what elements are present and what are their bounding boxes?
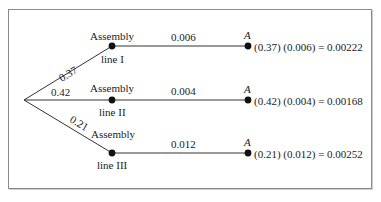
branch-line-3: 0.21 Assembly line III 0.012 A (0.21) (0… xyxy=(24,100,363,171)
line3-top-label: Assembly xyxy=(91,128,136,140)
line3-node xyxy=(109,150,116,157)
line2-defect-prob-label: 0.004 xyxy=(171,85,196,97)
probability-tree-diagram: 0.37 Assembly line I 0.006 A (0.37) (0.0… xyxy=(0,0,381,202)
line3-defect-prob-label: 0.012 xyxy=(171,138,196,150)
line1-result-label: (0.37) (0.006) = 0.00222 xyxy=(254,41,363,54)
line2-prob-label: 0.42 xyxy=(51,86,70,98)
line3-result-label: (0.21) (0.012) = 0.00252 xyxy=(254,148,363,161)
line3-prob-label: 0.21 xyxy=(68,113,91,133)
line2-node xyxy=(109,97,116,104)
line2-outcome-label: A xyxy=(243,83,251,95)
line3-outcome-label: A xyxy=(243,136,251,148)
line1-top-label: Assembly xyxy=(90,30,135,42)
line2-top-label: Assembly xyxy=(90,82,135,94)
line3-outcome-node xyxy=(245,150,252,157)
line1-outcome-label: A xyxy=(243,29,251,41)
line1-prob-label: 0.37 xyxy=(57,63,80,83)
line3-bottom-label: line III xyxy=(97,159,128,171)
line2-outcome-node xyxy=(245,97,252,104)
line1-bottom-label: line I xyxy=(101,53,124,65)
line1-node xyxy=(109,43,116,50)
line1-outcome-node xyxy=(245,43,252,50)
line2-result-label: (0.42) (0.004) = 0.00168 xyxy=(254,95,363,108)
line1-defect-prob-label: 0.006 xyxy=(171,31,196,43)
line2-bottom-label: line II xyxy=(99,106,126,118)
